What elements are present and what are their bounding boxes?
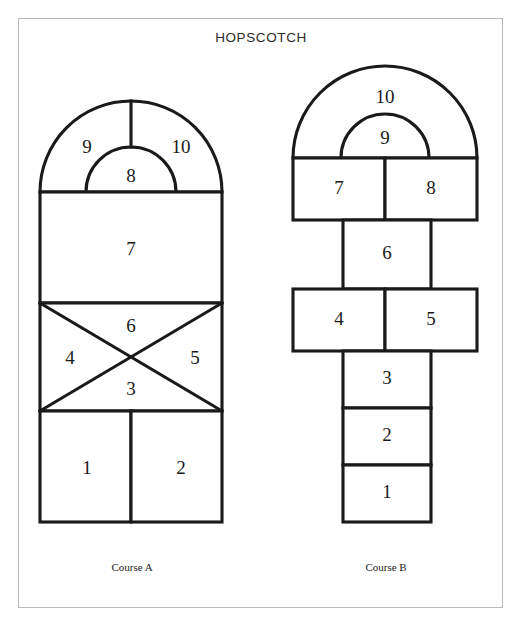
course-a-cell-label-1: 1 [82,457,92,478]
course-a-court: 9 10 8 7 6 4 5 3 1 2 [40,101,222,522]
course-b-cell-label-2: 2 [382,424,392,445]
course-a-cell-label-7: 7 [126,238,136,259]
course-a-cell-label-2: 2 [176,457,186,478]
course-b-cell-label-10: 10 [376,86,395,107]
page-canvas: HOPSCOTCH 9 10 8 7 6 4 5 [0,0,522,636]
course-b-court: 10 9 7 8 6 4 5 3 2 1 [293,66,477,522]
hopscotch-diagram: 9 10 8 7 6 4 5 3 1 2 [0,0,522,636]
course-a-cell-label-5: 5 [190,347,200,368]
course-b-cell-label-5: 5 [426,308,436,329]
course-a-cell-label-8: 8 [126,165,136,186]
course-a-cell-label-9: 9 [82,136,92,157]
course-a-caption: Course A [41,561,223,573]
course-b-cell-label-8: 8 [426,177,436,198]
course-b-cell-label-1: 1 [382,481,392,502]
course-a-cell-label-3: 3 [126,378,136,399]
course-a-cell-label-6: 6 [126,315,136,336]
course-a-cell-label-10: 10 [172,136,191,157]
course-b-cell-label-9: 9 [380,127,390,148]
course-b-cell-label-6: 6 [382,242,392,263]
course-b-cell-label-4: 4 [334,308,344,329]
course-b-caption: Course B [294,561,478,573]
course-a-cell-label-4: 4 [65,347,75,368]
course-b-cell-label-7: 7 [334,177,344,198]
course-b-cell-label-3: 3 [382,367,392,388]
